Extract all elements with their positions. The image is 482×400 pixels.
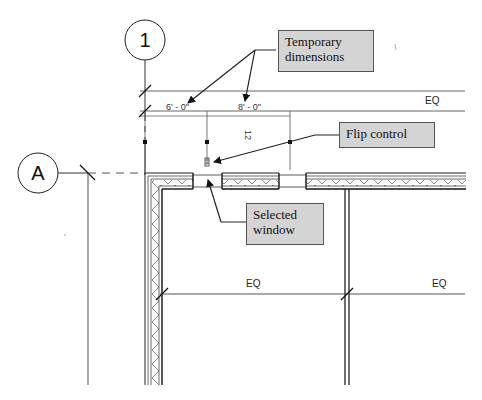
floor-plan-canvas[interactable]: 1 A EQ 6' - 0" 8' - 0" 12 xyxy=(0,0,482,400)
stray-mark xyxy=(395,44,396,50)
callout-temporary-dimensions-line2: dimensions xyxy=(285,49,367,64)
leader-flip-control xyxy=(214,135,340,162)
callout-temporary-dimensions: Temporary dimensions xyxy=(278,30,374,72)
eq-label-top: EQ xyxy=(425,95,440,106)
eq-dimension-bottom[interactable]: EQ EQ xyxy=(156,278,465,300)
callout-selected-window: Selected window xyxy=(246,203,324,245)
interior-wall[interactable] xyxy=(345,189,349,385)
callout-flip-control-text: Flip control xyxy=(346,126,428,141)
eq-label-left: EQ xyxy=(246,278,261,289)
dim-grip-mid[interactable] xyxy=(205,140,209,144)
stray-dot xyxy=(64,234,66,236)
temp-dim-6ft[interactable]: 6' - 0" xyxy=(166,102,189,112)
grid-line-a[interactable]: A xyxy=(18,153,145,385)
callout-selected-window-line1: Selected xyxy=(253,207,317,222)
grid-label-a: A xyxy=(31,162,45,184)
callout-selected-window-line2: window xyxy=(253,222,317,237)
window-opening[interactable] xyxy=(279,175,306,187)
dim-grip-left[interactable] xyxy=(143,140,147,144)
leader-temporary-dimensions xyxy=(188,50,276,103)
callout-temporary-dimensions-line1: Temporary xyxy=(285,34,367,49)
grid-label-1: 1 xyxy=(139,29,150,51)
callout-flip-control: Flip control xyxy=(339,122,435,148)
rotated-dim-12[interactable]: 12 xyxy=(243,130,253,140)
eq-label-right: EQ xyxy=(432,278,447,289)
selected-window[interactable] xyxy=(193,175,222,187)
temp-dim-8ft[interactable]: 8' - 0" xyxy=(238,102,261,112)
